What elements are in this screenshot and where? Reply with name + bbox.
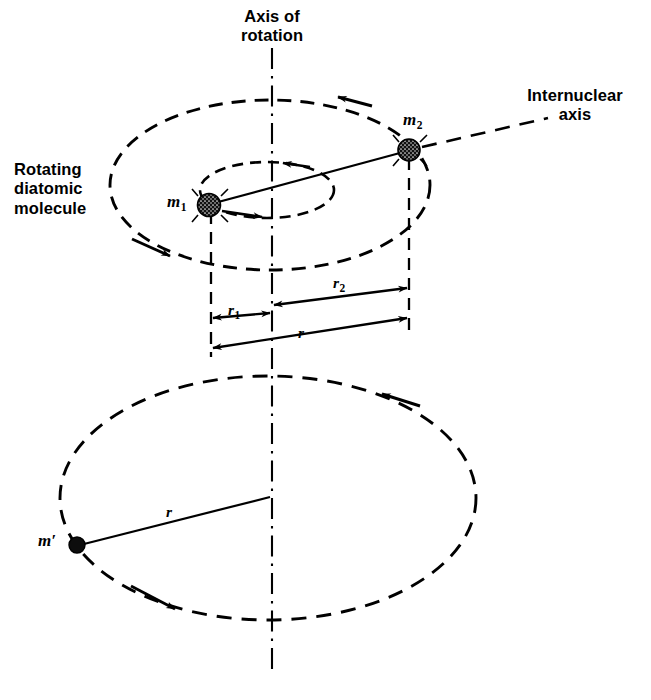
dimension-arrow-r [213, 318, 407, 348]
radius-r1-symbol: r [228, 301, 234, 318]
m2-orbit-ellipse [110, 100, 430, 270]
mass-m-prime-marker [69, 537, 85, 553]
mass-m1-label: m1 [167, 192, 186, 214]
radius-r1-label: r1 [228, 301, 240, 322]
physics-diagram-figure: Axis ofrotation Internuclearaxis Rotatin… [0, 0, 651, 700]
mass-m2-label: m2 [403, 110, 422, 132]
radius-r2-subscript: 2 [340, 282, 346, 294]
mass-m2-subscript: 2 [417, 119, 423, 131]
mass-m-prime-label: m′ [38, 531, 56, 551]
internuclear-bond-line [207, 150, 411, 205]
internuclear-axis-label: Internuclearaxis [505, 86, 645, 125]
radius-r-label: r [298, 324, 304, 342]
mass-m1-symbol: m [167, 192, 180, 211]
equivalent-radius-line [80, 497, 270, 545]
mass-m1-nucleus [192, 189, 228, 222]
radius-r2-symbol: r [333, 274, 339, 291]
rotating-diatomic-molecule-label: Rotatingdiatomicmolecule [14, 160, 144, 218]
axis-of-rotation-label: Axis ofrotation [212, 7, 332, 46]
m2-orbit-direction-arrow-back [338, 97, 372, 106]
equivalent-orbit-direction-arrow-front [131, 586, 175, 609]
mass-m1-subscript: 1 [181, 201, 187, 213]
radius-r1-subscript: 1 [235, 309, 241, 321]
mass-m2-nucleus [393, 135, 427, 166]
dimension-arrow-r1 [213, 313, 270, 318]
radius-r2-label: r2 [333, 274, 345, 295]
radius-r-lower-label: r [166, 503, 172, 521]
mass-m2-symbol: m [403, 110, 416, 129]
